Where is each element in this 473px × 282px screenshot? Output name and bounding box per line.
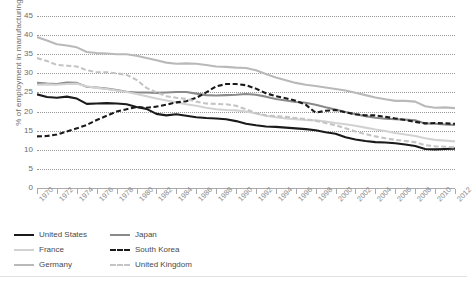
- x-axis-tick-label: 2000: [336, 185, 354, 203]
- legend-swatch-icon: [14, 264, 34, 266]
- x-axis-tick-label: 1970: [37, 185, 55, 203]
- x-axis-tick-mark: [97, 189, 98, 194]
- x-axis-tick-mark: [296, 189, 297, 194]
- x-axis-tick-mark: [256, 189, 257, 194]
- x-axis-tick-mark: [355, 189, 356, 194]
- x-axis-tick-label: 1972: [57, 185, 75, 203]
- x-axis-tick-mark: [375, 189, 376, 194]
- x-axis-tick-label: 1988: [216, 185, 234, 203]
- x-axis-tick-label: 1978: [117, 185, 135, 203]
- x-axis-tick-mark: [395, 189, 396, 194]
- x-axis-tick-label: 2004: [375, 185, 393, 203]
- legend-label: Germany: [39, 261, 72, 269]
- x-axis-tick-label: 2006: [395, 185, 413, 203]
- x-axis-tick-label: 2008: [415, 185, 433, 203]
- legend-swatch-icon: [14, 249, 34, 251]
- x-axis-tick-mark: [336, 189, 337, 194]
- y-axis-title: % of employment in manufacturing: [14, 0, 23, 143]
- x-axis-tick-mark: [77, 189, 78, 194]
- legend-label: United Kingdom: [135, 261, 192, 269]
- series-lines-group: [37, 16, 455, 188]
- y-axis-tick-label: 20: [24, 108, 33, 116]
- series-line-united-states: [37, 94, 455, 149]
- x-axis-tick-mark: [316, 189, 317, 194]
- series-line-south-korea: [37, 84, 455, 136]
- legend-label: France: [39, 246, 64, 254]
- x-axis-tick-label: 1990: [236, 185, 254, 203]
- x-axis-tick-label: 1982: [156, 185, 174, 203]
- x-axis-tick-label: 1992: [256, 185, 274, 203]
- x-axis-tick-label: 1984: [176, 185, 194, 203]
- legend-item-united-states[interactable]: United States: [14, 227, 110, 242]
- y-axis-tick-label: 15: [24, 127, 33, 135]
- x-axis-tick-label: 1974: [77, 185, 95, 203]
- x-axis: 1970197219741976197819801982198419861988…: [37, 188, 455, 189]
- legend-swatch-icon: [110, 264, 130, 266]
- x-axis-tick-label: 2012: [455, 185, 473, 203]
- chart-legend: United StatesJapanFranceSouth KoreaGerma…: [14, 227, 244, 272]
- legend-label: United States: [39, 231, 87, 239]
- x-axis-tick-mark: [415, 189, 416, 194]
- y-axis-tick-label: 40: [24, 31, 33, 39]
- x-axis-tick-label: 1998: [316, 185, 334, 203]
- x-axis-tick-mark: [57, 189, 58, 194]
- x-axis-tick-label: 1994: [276, 185, 294, 203]
- x-axis-tick-mark: [455, 189, 456, 194]
- y-axis-tick-label: 30: [24, 69, 33, 77]
- x-axis-tick-mark: [196, 189, 197, 194]
- y-axis-tick-label: 10: [24, 146, 33, 154]
- x-axis-tick-label: 1976: [97, 185, 115, 203]
- legend-item-france[interactable]: France: [14, 242, 110, 257]
- legend-swatch-icon: [110, 249, 130, 251]
- y-axis-tick-label: 35: [24, 50, 33, 58]
- x-axis-tick-label: 2002: [355, 185, 373, 203]
- footer-divider: [0, 276, 467, 277]
- x-axis-tick-mark: [236, 189, 237, 194]
- x-axis-tick-mark: [216, 189, 217, 194]
- x-axis-tick-mark: [137, 189, 138, 194]
- x-axis-tick-label: 1986: [196, 185, 214, 203]
- x-axis-tick-mark: [276, 189, 277, 194]
- x-axis-tick-label: 1996: [296, 185, 314, 203]
- y-axis-tick-label: 45: [24, 12, 33, 20]
- y-axis-tick-label: 5: [29, 165, 33, 173]
- y-axis-tick-label: 0: [29, 184, 33, 192]
- legend-item-south-korea[interactable]: South Korea: [110, 242, 240, 257]
- x-axis-tick-mark: [117, 189, 118, 194]
- legend-item-united-kingdom[interactable]: United Kingdom: [110, 257, 240, 272]
- x-axis-tick-mark: [176, 189, 177, 194]
- x-axis-tick-label: 2010: [435, 185, 453, 203]
- legend-swatch-icon: [110, 234, 130, 236]
- x-axis-tick-mark: [156, 189, 157, 194]
- legend-label: South Korea: [135, 246, 179, 254]
- series-line-france: [37, 84, 455, 142]
- legend-item-japan[interactable]: Japan: [110, 227, 240, 242]
- legend-item-germany[interactable]: Germany: [14, 257, 110, 272]
- y-axis-tick-label: 25: [24, 88, 33, 96]
- x-axis-tick-mark: [435, 189, 436, 194]
- legend-label: Japan: [135, 231, 157, 239]
- legend-swatch-icon: [14, 234, 34, 236]
- x-axis-tick-mark: [37, 189, 38, 194]
- x-axis-tick-label: 1980: [137, 185, 155, 203]
